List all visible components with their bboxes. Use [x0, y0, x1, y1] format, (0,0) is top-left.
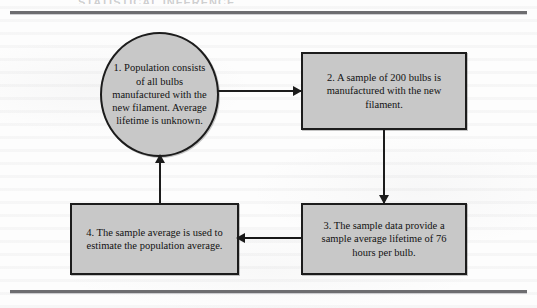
- arrowhead-up-icon: [155, 154, 165, 163]
- arrowhead-down-icon: [379, 195, 389, 204]
- bottom-rule: [10, 290, 527, 293]
- diagram-page: STATISTICAL INFERENCE 1. Population cons…: [0, 0, 537, 308]
- diagram-node-step1: 1. Population consists of all bulbs manu…: [100, 32, 219, 157]
- connector-step4-to-step1: [159, 156, 161, 204]
- arrowhead-right-icon: [293, 86, 302, 96]
- arrowhead-left-icon: [236, 233, 245, 243]
- connector-step2-to-step3: [383, 130, 385, 204]
- diagram-node-step2: 2. A sample of 200 bulbs is manufactured…: [301, 52, 467, 130]
- diagram-node-step2-label: 2. A sample of 200 bulbs is manufactured…: [303, 71, 465, 111]
- diagram-node-step3: 3. The sample data provide a sample aver…: [301, 203, 467, 275]
- cut-off-running-head: STATISTICAL INFERENCE: [78, 0, 238, 4]
- diagram-node-step4: 4. The sample average is used to estimat…: [70, 203, 239, 275]
- connector-step1-to-step2: [218, 90, 302, 92]
- diagram-node-step4-label: 4. The sample average is used to estimat…: [72, 226, 237, 252]
- diagram-node-step3-label: 3. The sample data provide a sample aver…: [303, 219, 465, 259]
- diagram-canvas: 1. Population consists of all bulbs manu…: [0, 14, 537, 290]
- diagram-node-step1-label: 1. Population consists of all bulbs manu…: [102, 61, 217, 127]
- connector-step3-to-step4: [238, 237, 302, 239]
